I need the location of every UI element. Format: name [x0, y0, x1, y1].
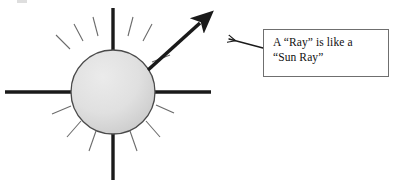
thin-ray-5	[143, 24, 152, 41]
thin-ray-8	[146, 121, 160, 137]
ray-arrow	[148, 23, 200, 70]
diagram-canvas: A “Ray” is like a “Sun Ray”	[0, 0, 396, 186]
callout-leader-arrow	[229, 39, 263, 48]
callout-box: A “Ray” is like a “Sun Ray”	[263, 29, 389, 77]
thin-ray-3	[93, 17, 98, 36]
thin-ray-12	[52, 106, 71, 114]
callout-text: A “Ray” is like a “Sun Ray”	[273, 35, 384, 65]
thin-ray-4	[128, 17, 133, 36]
sun-ray-diagram	[0, 0, 396, 186]
thin-ray-7	[156, 105, 174, 113]
sun-circle	[71, 50, 155, 134]
thin-ray-10	[89, 131, 96, 151]
thin-ray-11	[67, 121, 81, 137]
thin-ray-1	[56, 35, 70, 49]
thin-ray-2	[74, 24, 83, 41]
thin-ray-9	[130, 131, 137, 151]
